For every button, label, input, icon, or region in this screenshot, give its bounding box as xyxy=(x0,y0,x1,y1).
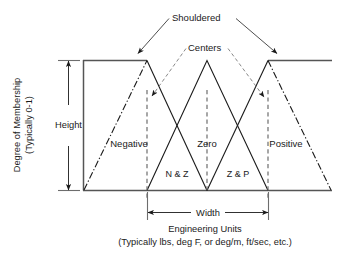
set-label-positive: Positive xyxy=(269,138,302,149)
y-axis-label-line2: (Typically 0-1) xyxy=(24,96,34,154)
fuzzy-membership-diagram: Shouldered Centers Height Degree of Memb… xyxy=(0,0,345,254)
shouldered-leader-left xyxy=(138,19,169,54)
y-axis-label-line1: Degree of Membership xyxy=(12,78,22,173)
centers-leader-left xyxy=(152,49,186,97)
x-caption-line1: Engineering Units xyxy=(168,224,242,234)
x-caption-line2: (Typically lbs, deg F, or deg/m, ft/sec,… xyxy=(118,237,292,247)
height-label: Height xyxy=(55,120,82,130)
set-label-zero: Zero xyxy=(197,138,217,149)
width-label: Width xyxy=(196,208,220,218)
overlap-label-z-and-p: Z & P xyxy=(227,169,250,179)
shouldered-callout-label: Shouldered xyxy=(172,12,221,23)
set-label-negative: Negative xyxy=(110,138,148,149)
diagram-canvas: Shouldered Centers Height Degree of Memb… xyxy=(0,0,345,254)
overlap-label-n-and-z: N & Z xyxy=(165,169,189,179)
shouldered-leader-right xyxy=(236,19,277,54)
negative-outer-ramp-dashdot xyxy=(84,61,147,191)
positive-outer-ramp-dashdot xyxy=(268,61,331,191)
centers-callout-label: Centers xyxy=(188,42,222,53)
centers-leader-right xyxy=(228,49,264,98)
